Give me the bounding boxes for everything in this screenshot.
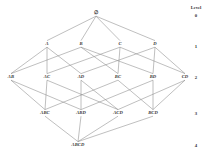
lattice-edge	[45, 116, 78, 141]
lattice-node-abd: ABD	[76, 111, 86, 116]
lattice-edge	[78, 116, 81, 141]
lattice-node-abc: ABC	[40, 111, 50, 116]
level-number-0: 0	[195, 14, 197, 19]
lattice-edge	[81, 80, 153, 109]
lattice-node-bc: BC	[115, 75, 121, 80]
lattice-node-empty: ∅	[94, 10, 98, 15]
lattice-edge	[11, 47, 47, 73]
lattice-node-bcd: BCD	[148, 111, 158, 116]
lattice-node-acd: ACD	[113, 111, 123, 116]
lattice-node-c: C	[118, 42, 121, 47]
lattice-node-ab: AB	[8, 75, 14, 80]
lattice-edge	[118, 80, 153, 109]
lattice-node-abcd: ABCD	[72, 143, 85, 148]
lattice-edge	[96, 16, 155, 40]
lattice-edge	[11, 47, 81, 73]
lattice-node-ad: AD	[78, 75, 85, 80]
lattice-edge	[47, 47, 81, 73]
lattice-edge	[96, 16, 120, 40]
lattice-edge	[78, 116, 153, 141]
lattice-edge	[11, 80, 45, 109]
lattice-node-cd: CD	[182, 75, 189, 80]
lattice-node-bd: BD	[150, 75, 157, 80]
lattice-node-ac: AC	[44, 75, 50, 80]
lattice-node-a: A	[45, 42, 48, 47]
lattice-edge	[47, 47, 120, 73]
level-number-4: 4	[195, 144, 197, 149]
lattice-edge	[118, 80, 185, 109]
level-number-2: 2	[195, 76, 197, 81]
lattice-edge	[153, 80, 185, 109]
lattice-edge	[81, 80, 118, 109]
lattice-node-b: B	[79, 42, 82, 47]
lattice-edge	[153, 47, 155, 73]
lattice-diagram-canvas: ∅ABCDABACADBCBDCDABCABDACDBCDABCD Level0…	[0, 0, 215, 157]
level-column-header: Level	[191, 6, 202, 11]
lattice-edge	[120, 47, 185, 73]
lattice-edge	[81, 47, 118, 73]
lattice-node-d: D	[153, 42, 156, 47]
level-number-1: 1	[195, 45, 197, 50]
level-number-3: 3	[195, 112, 197, 117]
lattice-edge	[78, 116, 118, 141]
lattice-edge	[155, 47, 185, 73]
